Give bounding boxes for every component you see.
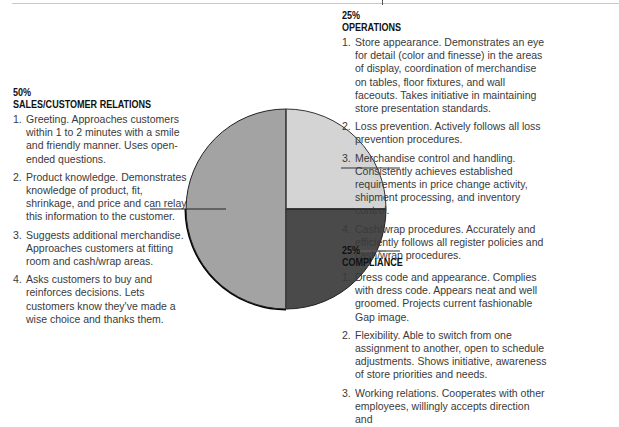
operations-percentage: 25%	[342, 9, 518, 21]
compliance-heading: COMPLIANCE	[342, 256, 518, 268]
operations-heading: OPERATIONS	[342, 21, 518, 33]
compliance-percentage: 25%	[342, 244, 518, 256]
operations-list: 1.Store appearance. Demonstrates an eye …	[342, 36, 547, 262]
list-item: 3.Merchandise control and handling. Cons…	[342, 152, 547, 218]
list-item: 4.Asks customers to buy and reinforces d…	[13, 273, 193, 326]
list-item: 1.Greeting. Approaches customers within …	[13, 113, 193, 166]
sales-section: 50% SALES/CUSTOMER RELATIONS 1.Greeting.…	[13, 86, 193, 331]
sales-heading: SALES/CUSTOMER RELATIONS	[13, 98, 168, 110]
sales-percentage: 50%	[13, 86, 168, 98]
list-item: 1.Store appearance. Demonstrates an eye …	[342, 36, 547, 115]
list-item: 3.Working relations. Cooperates with oth…	[342, 387, 547, 427]
compliance-section: 25% COMPLIANCE 1.Dress code and appearan…	[342, 244, 547, 427]
list-item: 2.Loss prevention. Actively follows all …	[342, 120, 547, 146]
sales-list: 1.Greeting. Approaches customers within …	[13, 113, 193, 326]
operations-section: 25% OPERATIONS 1.Store appearance. Demon…	[342, 9, 547, 267]
list-item: 1.Dress code and appearance. Complies wi…	[342, 271, 547, 324]
compliance-list: 1.Dress code and appearance. Complies wi…	[342, 271, 547, 426]
list-item: 2.Flexibility. Able to switch from one a…	[342, 329, 547, 382]
list-item: 3.Suggests additional merchandise. Appro…	[13, 229, 193, 269]
list-item: 2.Product knowledge. Demonstrates knowle…	[13, 171, 193, 224]
